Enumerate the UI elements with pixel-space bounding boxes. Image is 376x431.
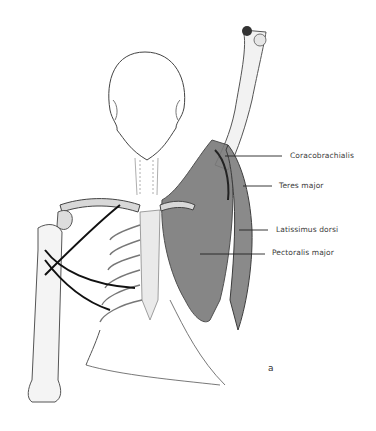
sternum: [140, 210, 160, 320]
lowered-humerus: [28, 210, 72, 402]
panel-letter: a: [268, 363, 274, 373]
skull-outline: [109, 52, 185, 160]
label-teres-major: Teres major: [279, 181, 324, 190]
label-pectoralis-major: Pectoralis major: [272, 248, 334, 257]
shoulder-muscles: [162, 140, 252, 330]
neck-vertebrae: [135, 158, 158, 196]
label-coracobrachialis: Coracobrachialis: [290, 151, 354, 160]
anatomy-illustration: [0, 0, 376, 431]
label-latissimus-dorsi: Latissimus dorsi: [276, 225, 338, 234]
